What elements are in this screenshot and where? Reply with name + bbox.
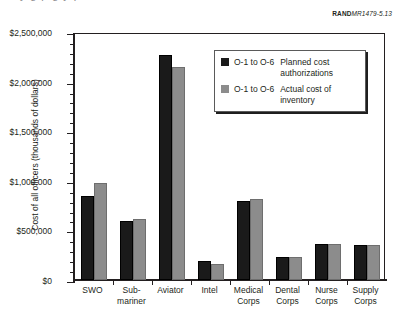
y-axis-minor-tick <box>70 113 74 114</box>
y-axis-minor-tick <box>70 153 74 154</box>
y-axis-minor-tick <box>70 262 74 263</box>
y-axis-minor-tick <box>70 64 74 65</box>
bar-actual <box>172 67 185 280</box>
bar-actual <box>211 264 224 280</box>
x-axis-category-label: MedicalCorps <box>229 285 268 306</box>
x-axis-category-label: Sub-mariner <box>112 285 151 306</box>
x-axis-category-label: Intel <box>190 285 229 296</box>
bar-actual <box>367 245 380 280</box>
black-square-icon <box>221 58 229 66</box>
bar-planned <box>120 221 133 280</box>
bar-actual <box>289 257 302 280</box>
legend-item: O-1 to O-6 Actual cost of inventory <box>221 84 358 105</box>
x-axis-category-label: SupplyCorps <box>346 285 385 306</box>
y-axis-tick <box>67 34 74 35</box>
bar-planned <box>237 201 250 280</box>
bar-actual <box>328 244 341 280</box>
rand-figure-number: MR1479-5.13 <box>352 10 392 17</box>
y-axis-tick-label: $0 <box>0 276 52 286</box>
bar-actual <box>250 199 263 280</box>
y-axis-minor-tick <box>70 272 74 273</box>
bar-planned <box>198 261 211 280</box>
y-axis-minor-tick <box>70 252 74 253</box>
y-axis-tick-label: $1,000,000 <box>0 177 52 187</box>
y-axis-minor-tick <box>70 94 74 95</box>
gray-square-icon <box>221 85 229 93</box>
bar-actual <box>94 183 107 280</box>
y-axis-tick <box>67 183 74 184</box>
y-axis-tick-label: $2,500,000 <box>0 28 52 38</box>
legend-item: O-1 to O-6 Planned cost authorizations <box>221 57 358 78</box>
legend-rank-range: O-1 to O-6 <box>234 57 274 68</box>
y-axis-minor-tick <box>70 173 74 174</box>
page-bleed-text: y g p g y p <box>20 0 390 1</box>
y-axis-tick <box>67 133 74 134</box>
y-axis-minor-tick <box>70 44 74 45</box>
legend-description: Actual cost of inventory <box>280 84 358 105</box>
y-axis-tick <box>67 282 74 283</box>
y-axis-minor-tick <box>70 213 74 214</box>
y-axis-minor-tick <box>70 54 74 55</box>
y-axis-tick <box>67 84 74 85</box>
x-axis-category-label: NurseCorps <box>307 285 346 306</box>
x-axis-category-label: DentalCorps <box>268 285 307 306</box>
y-axis-minor-tick <box>70 222 74 223</box>
bar-planned <box>315 244 328 280</box>
y-axis-tick <box>67 232 74 233</box>
rand-figure-id: RANDMR1479-5.13 <box>332 10 392 17</box>
y-axis-minor-tick <box>70 74 74 75</box>
y-axis-minor-tick <box>70 123 74 124</box>
legend-description: Planned cost authorizations <box>280 57 358 78</box>
legend-rank-range: O-1 to O-6 <box>234 84 274 95</box>
chart-legend: O-1 to O-6 Planned cost authorizations O… <box>214 50 366 112</box>
y-axis-tick-label: $500,000 <box>0 226 52 236</box>
x-axis-category-label: SWO <box>73 285 112 296</box>
y-axis-tick-label: $1,500,000 <box>0 127 52 137</box>
x-axis-category-label: Aviator <box>151 285 190 296</box>
bar-planned <box>276 257 289 280</box>
page-bleed-strip: y g p g y p <box>0 0 402 10</box>
bar-actual <box>133 219 146 281</box>
y-axis-minor-tick <box>70 163 74 164</box>
bar-planned <box>81 196 94 280</box>
y-axis-line <box>73 33 75 283</box>
y-axis-minor-tick <box>70 193 74 194</box>
bar-planned <box>159 55 172 280</box>
bar-planned <box>354 245 367 280</box>
y-axis-minor-tick <box>70 143 74 144</box>
y-axis-minor-tick <box>70 103 74 104</box>
y-axis-minor-tick <box>70 242 74 243</box>
y-axis-minor-tick <box>70 203 74 204</box>
rand-logo-text: RAND <box>332 10 351 17</box>
y-axis-tick-label: $2,000,000 <box>0 78 52 88</box>
